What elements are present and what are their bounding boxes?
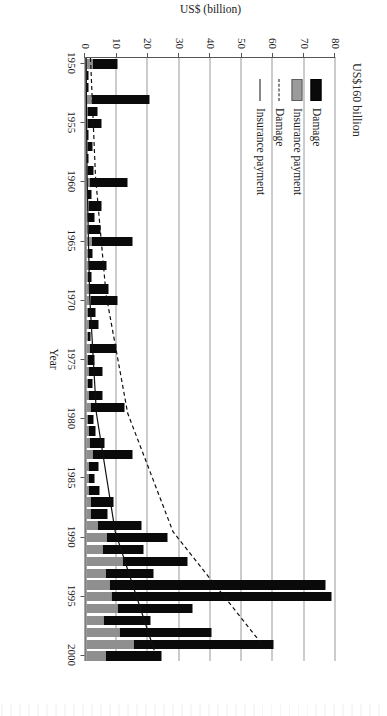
legend-item: Damage [273, 79, 285, 195]
chart-figure: 01020304050607080 US$ (billion) 19501955… [0, 0, 387, 716]
year-axis-tick-mark [80, 596, 84, 597]
year-axis-label: Year [47, 348, 59, 369]
legend-key-ins-line [259, 79, 260, 101]
legend-key-dmg-line [278, 79, 279, 101]
year-axis-tick-mark [80, 477, 84, 478]
chart-legend: DamageInsurance paymentDamageInsurance p… [254, 79, 321, 195]
value-axis-tick-label: 0 [80, 15, 91, 49]
year-axis-tick-label: 2000 [65, 644, 76, 666]
value-axis-tick-label: 70 [298, 15, 309, 49]
legend-label: Insurance payment [291, 108, 303, 195]
scan-edge-artifact [0, 704, 387, 716]
year-axis-tick-mark [80, 418, 84, 419]
value-axis-tick-label: 80 [330, 15, 341, 49]
year-axis-tick-mark [80, 359, 84, 360]
year-axis-tick-mark [80, 655, 84, 656]
year-axis-tick-mark [80, 63, 84, 64]
year-axis-tick-label: 1950 [65, 52, 76, 74]
legend-label: Insurance payment [254, 108, 266, 195]
year-axis-tick-label: 1965 [65, 230, 76, 252]
overflow-annotation: US$160 billion [348, 63, 363, 137]
legend-item: Insurance payment [291, 79, 303, 195]
value-axis-label: US$ (billion) [179, 3, 240, 15]
year-axis-tick-label: 1955 [65, 111, 76, 133]
value-axis-tick-label: 40 [205, 15, 216, 49]
year-axis-tick-label: 1975 [65, 348, 76, 370]
year-axis-tick-label: 1995 [65, 585, 76, 607]
legend-item: Damage [310, 79, 322, 195]
legend-key-ins-bar [291, 79, 302, 101]
value-axis-tick-label: 30 [173, 15, 184, 49]
legend-label: Damage [273, 108, 285, 146]
year-axis-tick-mark [80, 122, 84, 123]
legend-key-dmg-bar [310, 79, 321, 101]
legend-label: Damage [310, 108, 322, 146]
value-axis-tick-label: 20 [142, 15, 153, 49]
year-axis-tick-label: 1960 [65, 170, 76, 192]
value-axis-tick-label: 50 [236, 15, 247, 49]
year-axis-tick-mark [80, 300, 84, 301]
legend-item: Insurance payment [254, 79, 266, 195]
rotated-figure-stage: 01020304050607080 US$ (billion) 19501955… [0, 0, 387, 716]
year-axis-tick-label: 1980 [65, 407, 76, 429]
year-axis-tick-mark [80, 241, 84, 242]
year-axis-tick-label: 1990 [65, 526, 76, 548]
year-axis-tick-mark [80, 537, 84, 538]
value-axis-tick-label: 10 [111, 15, 122, 49]
year-axis-tick-label: 1970 [65, 289, 76, 311]
year-axis-tick-mark [80, 181, 84, 182]
insurance-trend-line [86, 58, 154, 650]
year-axis-tick-label: 1985 [65, 466, 76, 488]
value-axis-tick-label: 60 [267, 15, 278, 49]
damage-trend-line [90, 58, 266, 650]
